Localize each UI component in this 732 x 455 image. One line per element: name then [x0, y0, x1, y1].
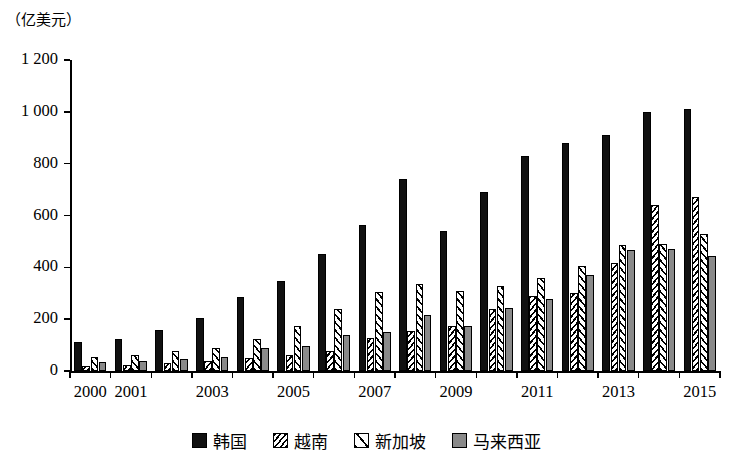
- x-tick-label: 2015: [683, 382, 716, 402]
- x-tick: [476, 371, 477, 378]
- bar-group: [639, 60, 680, 371]
- bar: [326, 351, 334, 371]
- bar: [99, 362, 107, 371]
- legend-item[interactable]: 马来西亚: [452, 428, 541, 453]
- bar: [684, 109, 692, 371]
- x-tick: [516, 371, 517, 378]
- bar: [164, 363, 172, 371]
- bar: [221, 357, 229, 372]
- bar: [383, 332, 391, 371]
- bar: [204, 361, 212, 371]
- bar: [334, 309, 342, 371]
- bar: [286, 355, 294, 371]
- x-tick-label: 2005: [277, 382, 310, 402]
- x-tick: [110, 371, 111, 378]
- bar: [448, 326, 456, 371]
- bar: [456, 291, 464, 371]
- bar: [253, 339, 261, 371]
- bar: [700, 234, 708, 371]
- x-tick: [191, 371, 192, 378]
- bar: [74, 342, 82, 371]
- bar: [139, 361, 147, 371]
- y-axis-unit-caption: （亿美元）: [6, 8, 81, 29]
- bar: [480, 192, 488, 371]
- bar: [367, 338, 375, 371]
- bar-group: [436, 60, 477, 371]
- x-tick-label: 2011: [521, 382, 553, 402]
- bar-group: [558, 60, 599, 371]
- bar-group: [70, 60, 111, 371]
- bar: [91, 357, 99, 371]
- bar: [196, 318, 204, 371]
- bar: [416, 284, 424, 371]
- x-tick-label: 2000: [74, 382, 107, 402]
- x-tick-label: 2007: [358, 382, 391, 402]
- x-tick: [557, 371, 558, 378]
- bar: [611, 263, 619, 371]
- x-tick: [638, 371, 639, 378]
- legend-item[interactable]: 越南: [273, 428, 328, 453]
- x-tick-label: 2009: [439, 382, 472, 402]
- bar-chart: （亿美元） 02004006008001 0001 200 2000200120…: [0, 0, 732, 455]
- bar: [82, 366, 90, 371]
- x-tick: [272, 371, 273, 378]
- bar: [692, 197, 700, 371]
- bar-group: [598, 60, 639, 371]
- x-tick: [719, 371, 720, 378]
- bar: [643, 112, 651, 371]
- bar: [261, 348, 269, 371]
- bar-group: [192, 60, 233, 371]
- bar: [578, 266, 586, 371]
- bar: [537, 278, 545, 371]
- bar-group: [151, 60, 192, 371]
- plot-area: 02004006008001 0001 200 2000200120032005…: [70, 60, 720, 371]
- bar: [123, 365, 131, 371]
- bar: [659, 244, 667, 371]
- legend-swatch-icon: [192, 433, 207, 448]
- bar: [529, 296, 537, 371]
- x-tick: [354, 371, 355, 378]
- bar: [343, 335, 351, 371]
- x-tick: [679, 371, 680, 378]
- bar: [294, 326, 302, 371]
- x-tick: [394, 371, 395, 378]
- bar: [172, 351, 180, 371]
- bar: [464, 326, 472, 371]
- x-tick-label: 2013: [602, 382, 635, 402]
- bar-group: [111, 60, 152, 371]
- bar-group: [314, 60, 355, 371]
- bar: [619, 245, 627, 371]
- bar-group: [517, 60, 558, 371]
- legend-swatch-icon: [452, 433, 467, 448]
- bar: [570, 293, 578, 371]
- bar: [115, 339, 123, 371]
- legend-swatch-icon: [273, 433, 288, 448]
- bar: [407, 331, 415, 371]
- bar: [489, 309, 497, 371]
- bar: [245, 358, 253, 371]
- bar: [668, 249, 676, 371]
- bar: [180, 359, 188, 371]
- bar: [212, 348, 220, 371]
- bar: [424, 315, 432, 371]
- bar: [602, 135, 610, 371]
- bar: [302, 346, 310, 371]
- legend-label: 新加坡: [375, 428, 426, 453]
- x-tick: [151, 371, 152, 378]
- bar: [318, 254, 326, 371]
- legend-item[interactable]: 新加坡: [354, 428, 426, 453]
- bar: [505, 308, 513, 371]
- legend-item[interactable]: 韩国: [192, 428, 247, 453]
- bar: [497, 286, 505, 371]
- bar-group: [273, 60, 314, 371]
- bar-group: [354, 60, 395, 371]
- legend-label: 越南: [294, 428, 328, 453]
- bar: [399, 179, 407, 371]
- legend-swatch-icon: [354, 433, 369, 448]
- bar: [375, 292, 383, 371]
- chart-legend: 韩国越南新加坡马来西亚: [0, 428, 732, 453]
- x-tick: [597, 371, 598, 378]
- x-tick-label: 2003: [196, 382, 229, 402]
- bar-group: [476, 60, 517, 371]
- bar: [277, 281, 285, 371]
